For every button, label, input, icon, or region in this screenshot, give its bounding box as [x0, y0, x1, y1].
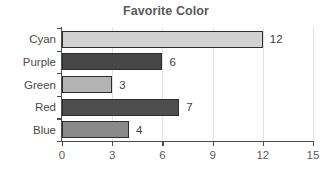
y-tick-1 [57, 51, 62, 52]
gridline-x-12 [263, 28, 264, 141]
bar-purple [62, 53, 162, 70]
x-tick-3 [112, 142, 113, 146]
bar-chart: Favorite Color 0369121512Cyan6Purple3Gre… [0, 0, 332, 174]
y-tick-3 [57, 96, 62, 97]
x-tick-label-0: 0 [59, 149, 65, 161]
y-tick-0 [57, 28, 62, 29]
y-tick-label-red: Red [35, 101, 56, 113]
y-tick-label-blue: Blue [33, 124, 56, 136]
x-tick-label-3: 3 [109, 149, 115, 161]
bar-value-cyan: 12 [270, 33, 283, 45]
chart-title: Favorite Color [0, 4, 332, 18]
x-axis-line [61, 141, 314, 142]
x-tick-9 [213, 142, 214, 146]
y-tick-4 [57, 118, 62, 119]
x-tick-label-15: 15 [307, 149, 320, 161]
bar-green [62, 76, 112, 93]
x-tick-label-9: 9 [209, 149, 215, 161]
y-tick-label-purple: Purple [23, 56, 56, 68]
bar-value-green: 3 [119, 79, 125, 91]
x-tick-15 [313, 142, 314, 146]
y-tick-label-green: Green [24, 79, 56, 91]
y-tick-label-cyan: Cyan [29, 33, 56, 45]
bar-value-blue: 4 [136, 124, 142, 136]
gridline-x-15 [313, 28, 314, 141]
x-tick-label-12: 12 [256, 149, 269, 161]
bar-blue [62, 121, 129, 138]
x-tick-0 [62, 142, 63, 146]
x-tick-12 [263, 142, 264, 146]
x-tick-label-6: 6 [159, 149, 165, 161]
x-tick-6 [162, 142, 163, 146]
bar-value-purple: 6 [169, 56, 175, 68]
y-tick-5 [57, 141, 62, 142]
bar-red [62, 99, 179, 116]
bar-cyan [62, 31, 263, 48]
y-tick-2 [57, 73, 62, 74]
bar-value-red: 7 [186, 101, 192, 113]
